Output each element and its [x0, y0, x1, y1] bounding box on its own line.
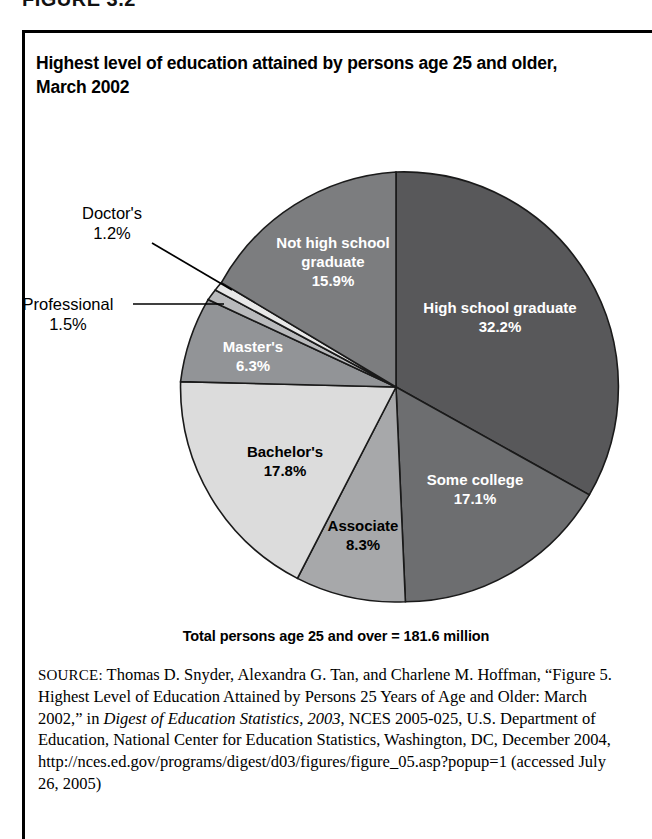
chart-title: Highest level of education attained by p…	[36, 52, 596, 99]
slice-percent-associate: 8.3%	[346, 536, 380, 553]
chart-total-note: Total persons age 25 and over = 181.6 mi…	[36, 628, 636, 644]
callout-label-doctors: Doctor's	[82, 204, 142, 222]
slice-label-bachelors: Bachelor's	[247, 443, 323, 460]
slice-label-some-college: Some college	[427, 471, 524, 488]
callout-percent-doctors: 1.2%	[93, 224, 131, 242]
slice-label-not-high-school-graduate-line1: Not high school	[276, 234, 389, 251]
callout-label-professional: Professional	[23, 295, 114, 313]
source-italic-title: Digest of Education Statistics, 2003	[104, 709, 341, 728]
slice-label-associate: Associate	[328, 517, 399, 534]
source-note: SOURCE: Thomas D. Snyder, Alexandra G. T…	[38, 664, 628, 795]
pie-chart-svg: High school graduate 32.2% Some college …	[0, 140, 652, 630]
callout-percent-professional: 1.5%	[49, 315, 87, 333]
slice-percent-not-high-school-graduate: 15.9%	[312, 272, 355, 289]
slice-label-high-school-graduate: High school graduate	[423, 299, 576, 316]
slice-percent-bachelors: 17.8%	[264, 462, 307, 479]
callout-line-doctors	[152, 243, 232, 290]
figure-number-label: FIGURE 3.2	[22, 0, 136, 11]
slice-percent-some-college: 17.1%	[454, 490, 497, 507]
slice-percent-masters: 6.3%	[236, 357, 270, 374]
slice-label-not-high-school-graduate-line2: graduate	[301, 253, 364, 270]
slice-percent-high-school-graduate: 32.2%	[479, 318, 522, 335]
slice-label-masters: Master's	[223, 338, 283, 355]
pie-chart-container: High school graduate 32.2% Some college …	[0, 140, 652, 630]
source-label: SOURCE:	[38, 667, 103, 683]
